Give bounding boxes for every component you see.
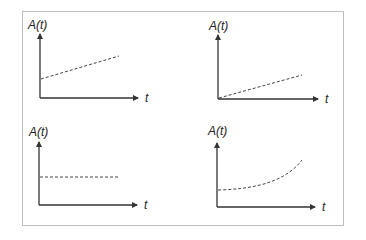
panel-constant: A(t) t xyxy=(28,125,148,212)
x-axis-label: t xyxy=(325,92,329,106)
y-axis-label: A(t) xyxy=(208,19,228,33)
diagram-canvas: A(t) t A(t) t A(t) t A(t) t xyxy=(0,0,366,240)
curve-linear-origin xyxy=(219,75,302,98)
panel-exponential: A(t) t xyxy=(207,124,326,214)
x-axis-label: t xyxy=(144,198,148,212)
x-axis-label: t xyxy=(322,200,326,214)
curve-exponential xyxy=(218,160,302,190)
y-axis-label: A(t) xyxy=(207,124,227,138)
panel-linear-offset: A(t) t xyxy=(27,18,149,105)
y-axis-label: A(t) xyxy=(28,125,48,139)
curve-linear-offset xyxy=(41,56,119,79)
y-axis-label: A(t) xyxy=(27,18,47,32)
panel-linear-origin: A(t) t xyxy=(208,19,329,106)
x-axis-label: t xyxy=(145,91,149,105)
